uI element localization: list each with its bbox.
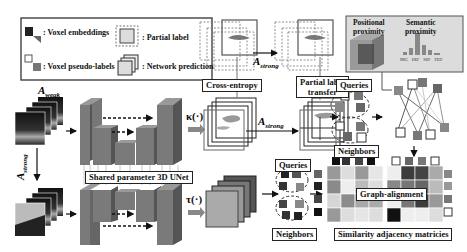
legend-partial-label: : Partial label [142,33,189,42]
positional-proximity-label: Positionalproximity [353,18,385,36]
strong-augmentation-label-top: Astrong [253,55,279,70]
legend-voxel-embeddings: : Voxel embeddings [43,28,109,37]
tau-head-label: τ(·) [186,193,202,205]
voxel-pseudo-label-icon [25,55,32,62]
strong-augmentation-label-left: Astrong [14,154,29,180]
diagram-graphics [0,0,467,252]
semantic-proximity-label: Semanticproximity [405,18,437,36]
strong-augmentation-label-mid: Astrong [258,115,284,130]
unet-top [80,98,182,165]
bottom-queries-box: Queries [275,159,311,172]
unet-label: Shared parameter 3D UNet [85,171,193,184]
top-neighbors-box: Neighbors [334,145,379,158]
similarity-matrices-box: Similarity adjacency matricies [334,228,452,241]
voxel-embedding-icon [25,27,33,36]
top-queries-box: Queries [336,79,372,92]
legend-voxel-pseudo-labels: : Voxel pseudo-labels [43,62,115,71]
top-prediction-stack [204,98,256,150]
bottom-neighbors-box: Neighbors [272,228,317,241]
unet-bottom [80,183,182,245]
kappa-head-label: κ(·) [186,110,203,122]
cross-entropy-box: Cross-entropy [202,79,262,92]
weak-augmented-stack [15,97,63,145]
bottom-prediction-stack [206,176,256,227]
strong-augmented-stack [15,188,63,236]
positional-cube [350,34,384,70]
legend-network-prediction: : Network prediction [142,62,213,71]
semantic-bar-labels: IMGEKFSRFPED [400,57,442,62]
graph-alignment-box: Graph-alignment [356,188,427,201]
weak-augmentation-label: Aweak [38,84,60,99]
